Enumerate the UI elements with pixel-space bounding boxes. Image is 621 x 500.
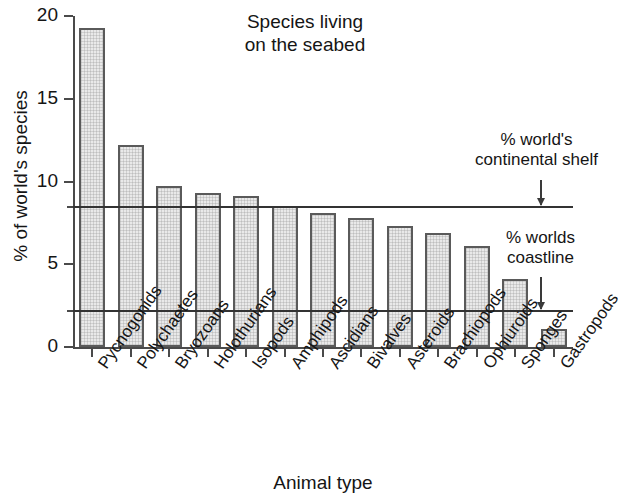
bar-pycnogonids (79, 28, 105, 347)
x-tick-5 (284, 349, 286, 357)
x-axis-label: Animal type (73, 472, 573, 494)
x-tick-9 (437, 349, 439, 357)
y-tick-label-20: 20 (18, 5, 58, 24)
x-tick-11 (514, 349, 516, 357)
reference-line-continental-shelf (73, 206, 573, 208)
annotation-coastline: % worlds coastline (468, 228, 613, 268)
x-tick-4 (245, 349, 247, 357)
x-tick-2 (168, 349, 170, 357)
x-tick-8 (399, 349, 401, 357)
y-axis-line (73, 16, 75, 348)
x-tick-3 (207, 349, 209, 357)
x-tick-10 (476, 349, 478, 357)
chart-figure: 05101520 Species living on the seabed % … (0, 0, 621, 500)
y-tick-15 (64, 98, 73, 100)
y-tick-0 (64, 346, 73, 348)
x-tick-6 (322, 349, 324, 357)
y-tick-label-0: 0 (18, 336, 58, 355)
y-tick-5 (64, 263, 73, 265)
y-tick-20 (64, 15, 73, 17)
x-tick-7 (360, 349, 362, 357)
x-tick-1 (130, 349, 132, 357)
y-axis-label: % of world's species (10, 51, 32, 301)
annotation-continental-shelf: % world's continental shelf (452, 130, 621, 170)
arrow-down-icon-continental-shelf (540, 180, 542, 205)
x-tick-12 (553, 349, 555, 357)
y-tick-10 (64, 181, 73, 183)
chart-title: Species living on the seabed (205, 10, 405, 56)
x-tick-0 (91, 349, 93, 357)
